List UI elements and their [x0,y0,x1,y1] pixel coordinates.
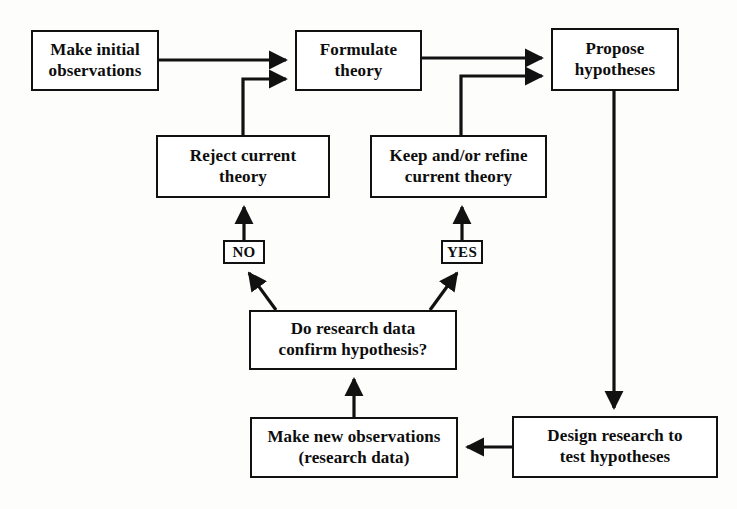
node-label: Keep and/or refinecurrent theory [383,146,533,187]
node-keep-refine-current-theory[interactable]: Keep and/or refinecurrent theory [370,135,547,198]
edge-reject-to-formulate [243,79,286,135]
node-label: Reject currenttheory [184,146,302,187]
edge-keep-to-propose [461,76,542,135]
node-label: Make initialobservations [43,40,148,81]
node-make-initial-observations[interactable]: Make initialobservations [31,30,159,91]
node-do-research-data-confirm-hypothesis[interactable]: Do research dataconfirm hypothesis? [249,310,457,370]
flowchart-canvas: Make initialobservations Formulatetheory… [0,0,737,509]
node-label: Design research totest hypotheses [541,426,688,467]
decision-label-yes[interactable]: YES [441,240,483,264]
node-reject-current-theory[interactable]: Reject currenttheory [156,135,330,198]
node-label: Make new observations(research data) [261,427,446,468]
decision-label-text: YES [447,244,477,261]
decision-label-text: NO [232,244,255,261]
edge-decision-to-no [249,273,276,310]
node-label: Do research dataconfirm hypothesis? [273,319,434,360]
node-make-new-observations[interactable]: Make new observations(research data) [250,417,458,478]
node-propose-hypotheses[interactable]: Proposehypotheses [551,28,679,91]
edge-decision-to-yes [430,273,457,310]
decision-label-no[interactable]: NO [223,240,265,264]
node-label: Proposehypotheses [569,39,661,80]
node-label: Formulatetheory [314,40,403,81]
node-design-research-test-hypotheses[interactable]: Design research totest hypotheses [512,416,718,478]
node-formulate-theory[interactable]: Formulatetheory [295,30,422,91]
